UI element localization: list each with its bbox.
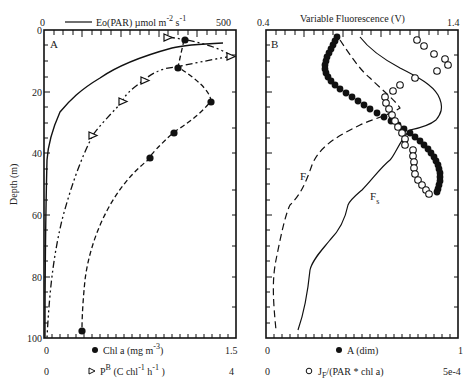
panel-b-left-ticks xyxy=(266,45,272,323)
chl-a-curve xyxy=(82,40,211,330)
panel-b-frame xyxy=(266,30,458,338)
chl-a-axis-min: 0 xyxy=(44,345,49,356)
panel-a-letter: A xyxy=(50,38,58,50)
jf-axis-max: 5e-4 xyxy=(443,366,461,377)
panel-b-top-ticks xyxy=(276,30,448,37)
panel-a-top-ticks xyxy=(54,30,226,37)
chart-figure: A 0 Eo(PAR) µmol m-2 s-1 500 0 20 40 60 … xyxy=(0,0,473,385)
pb-axis-max: 4 xyxy=(229,366,234,377)
svg-text:80: 80 xyxy=(32,272,42,283)
svg-text:100: 100 xyxy=(27,333,42,344)
variable-fluorescence-label: Variable Fluorescence (V) xyxy=(300,13,405,25)
svg-text:60: 60 xyxy=(32,210,42,221)
panel-a-top-max: 500 xyxy=(216,17,231,28)
chl-a-axis-label: Chl a (mg m-3) xyxy=(103,342,163,357)
panel-a: A 0 Eo(PAR) µmol m-2 s-1 500 0 20 40 60 … xyxy=(8,14,238,378)
jf-axis-label: JF/(PAR * chl a) xyxy=(318,366,384,380)
jf-axis-min: 0 xyxy=(265,366,270,377)
f-curve-label: F xyxy=(300,170,306,182)
chl-a-axis-max: 1.5 xyxy=(225,345,238,356)
svg-text:40: 40 xyxy=(32,148,42,159)
chl-a-legend-marker xyxy=(92,347,98,353)
a-axis-label: A (dim) xyxy=(347,345,378,357)
a-axis-min: 0 xyxy=(265,345,270,356)
panel-b-top-min: 0.4 xyxy=(257,17,270,28)
panel-b-letter: B xyxy=(271,38,278,50)
pb-axis-label: PB (C chl-1 h-1 ) xyxy=(100,363,165,378)
a-legend-marker xyxy=(336,347,342,353)
a-axis-max: 1 xyxy=(458,345,463,356)
panel-b: B F Fs 0.4 Variable Fluorescence (V) 1.4… xyxy=(257,13,463,380)
eo-par-legend-label: Eo(PAR) µmol m-2 s-1 xyxy=(96,14,186,29)
pb-legend-marker xyxy=(89,368,95,374)
pb-axis-min: 0 xyxy=(44,366,49,377)
fs-curve-label: Fs xyxy=(370,190,379,206)
svg-text:20: 20 xyxy=(32,87,42,98)
pb-curve xyxy=(47,37,232,338)
depth-axis-label: Depth (m) xyxy=(8,164,20,205)
panel-a-y-labels: 0 20 40 60 80 100 xyxy=(27,25,42,344)
svg-text:0: 0 xyxy=(37,25,42,36)
pb-markers xyxy=(89,34,235,139)
panel-b-top-max: 1.4 xyxy=(447,17,460,28)
jf-legend-marker xyxy=(306,368,312,374)
